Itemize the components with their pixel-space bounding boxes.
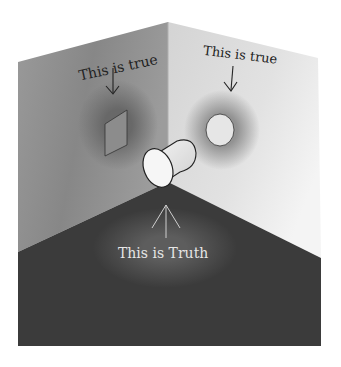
corner-scene: This is true This is true This is Truth: [0, 0, 341, 367]
illustration: This is true This is true This is Truth: [0, 0, 341, 367]
floor-label: This is Truth: [118, 245, 208, 261]
circle-shadow: [206, 114, 234, 146]
